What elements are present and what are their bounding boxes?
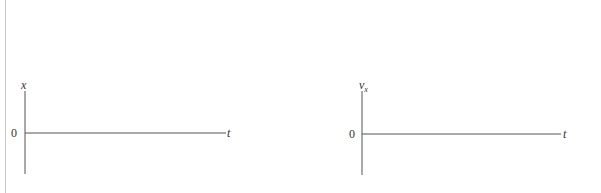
velocity-time-graph: vx 0 t <box>0 0 601 193</box>
origin-label: 0 <box>349 128 355 140</box>
velocity-time-axes <box>0 0 601 193</box>
x-axis-label: t <box>563 128 566 140</box>
y-axis-label: vx <box>359 79 368 94</box>
